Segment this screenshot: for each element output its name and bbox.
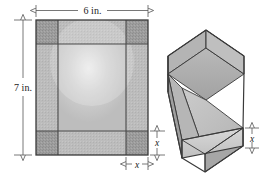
- dimension-height-7in: 7 in.: [14, 20, 32, 155]
- corner-cut-bottom-left: [36, 131, 58, 155]
- dimension-width-6in: 6 in.: [36, 5, 148, 17]
- dimension-sheet-cut-horizontal: x: [126, 157, 148, 170]
- label-sheet-cut-vertical: x: [154, 138, 160, 148]
- open-box-3d-group: [168, 30, 244, 172]
- dimension-box-height: x: [245, 128, 259, 148]
- corner-cut-top-right: [126, 20, 148, 44]
- corner-cut-top-left: [36, 20, 58, 44]
- dimension-sheet-cut-vertical: x: [150, 131, 165, 155]
- corner-cut-bottom-right: [126, 131, 148, 155]
- label-height-7in: 7 in.: [14, 82, 32, 93]
- flat-sheet-group: [36, 18, 148, 155]
- label-width-6in: 6 in.: [84, 5, 102, 16]
- label-sheet-cut-horizontal: x: [134, 160, 140, 170]
- geometry-figure: 6 in. 7 in. x x: [0, 0, 264, 173]
- figure-canvas: 6 in. 7 in. x x: [0, 0, 264, 173]
- sheet-highlight: [50, 18, 134, 106]
- label-box-height: x: [249, 134, 255, 144]
- sheet-flap-bottom: [58, 131, 126, 155]
